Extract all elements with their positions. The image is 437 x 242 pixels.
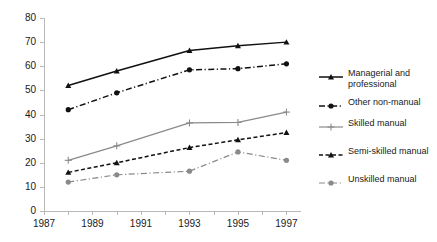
legend-item-label: Managerial and professional	[348, 68, 410, 90]
series-3	[65, 130, 289, 175]
legend-item-label: Unskilled manual	[348, 174, 417, 185]
x-axis-tick	[165, 211, 166, 215]
x-axis-tick-label: 1997	[266, 219, 306, 229]
y-axis-tick-label: 60	[0, 61, 36, 71]
x-axis-tick	[262, 211, 263, 215]
y-axis-tick	[40, 115, 44, 116]
y-axis-tick	[40, 90, 44, 91]
y-axis-tick-label: 70	[0, 37, 36, 47]
x-axis-tick	[189, 211, 190, 215]
x-axis-tick-label: 1989	[72, 219, 112, 229]
x-axis-tick-label: 1987	[24, 219, 64, 229]
series-1	[66, 61, 289, 112]
legend-marker-icon	[318, 175, 344, 187]
plot-area	[44, 18, 301, 211]
legend-item[interactable]: Unskilled manual	[318, 174, 417, 187]
y-axis-tick-label: 0	[0, 206, 36, 216]
x-axis-tick	[286, 211, 287, 215]
x-axis-tick	[68, 211, 69, 215]
y-axis-tick	[40, 66, 44, 67]
series-lines	[44, 18, 301, 211]
y-axis-tick	[40, 42, 44, 43]
y-axis-tick	[40, 187, 44, 188]
x-axis-tick-label: 1995	[218, 219, 258, 229]
legend-item-label: Skilled manual	[348, 118, 407, 129]
y-axis-tick-label: 40	[0, 110, 36, 120]
y-axis-tick-label: 30	[0, 134, 36, 144]
x-axis-tick	[92, 211, 93, 215]
x-axis-tick	[44, 211, 45, 215]
legend-marker-icon	[318, 69, 344, 81]
x-axis-tick	[214, 211, 215, 215]
legend-item[interactable]: Managerial and professional	[318, 68, 410, 90]
legend-item[interactable]: Skilled manual	[318, 118, 407, 131]
x-axis-tick	[238, 211, 239, 215]
series-0	[65, 39, 289, 88]
legend-marker-icon	[318, 119, 344, 131]
series-4	[66, 149, 289, 184]
x-axis-tick	[117, 211, 118, 215]
legend-item-label: Other non-manual	[348, 97, 421, 108]
legend-marker-icon	[318, 147, 344, 159]
x-axis-tick	[141, 211, 142, 215]
x-axis-tick-label: 1991	[121, 219, 161, 229]
legend-item[interactable]: Semi-skilled manual	[318, 146, 429, 159]
y-axis-tick	[40, 18, 44, 19]
y-axis-tick	[40, 163, 44, 164]
y-axis-tick-label: 10	[0, 182, 36, 192]
y-axis-tick-label: 20	[0, 158, 36, 168]
legend-marker-icon	[318, 98, 344, 110]
y-axis-tick	[40, 139, 44, 140]
legend-item[interactable]: Other non-manual	[318, 97, 421, 110]
legend-item-label: Semi-skilled manual	[348, 146, 429, 157]
y-axis-tick-label: 50	[0, 85, 36, 95]
line-chart: 01020304050607080 1987198919911993199519…	[0, 0, 437, 242]
y-axis-tick-label: 80	[0, 13, 36, 23]
x-axis-tick-label: 1993	[169, 219, 209, 229]
